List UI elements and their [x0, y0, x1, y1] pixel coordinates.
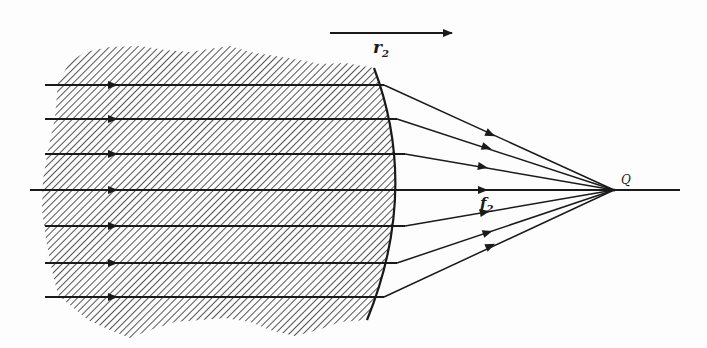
radius-label: r2 — [373, 37, 389, 59]
focus-point-q — [613, 189, 616, 192]
diagram-canvas — [0, 0, 707, 348]
focus-point-label: Q — [621, 173, 631, 187]
refracting-medium — [42, 46, 395, 338]
optics-diagram: r2 f2 Q — [0, 0, 707, 348]
focal-length-label: f2 — [480, 194, 493, 214]
